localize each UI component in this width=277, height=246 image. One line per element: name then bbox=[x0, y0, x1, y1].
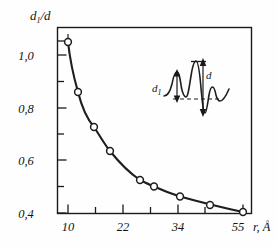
data-point bbox=[207, 202, 214, 209]
y-tick-label: 0,6 bbox=[18, 154, 34, 168]
x-tick-label: 55 bbox=[232, 220, 245, 234]
data-point bbox=[65, 39, 72, 46]
data-point bbox=[137, 177, 144, 184]
data-markers bbox=[65, 39, 247, 216]
y-axis-ticks bbox=[58, 41, 67, 213]
y-tick-label: 0,4 bbox=[18, 207, 34, 221]
inset-label-d1: d1 bbox=[152, 82, 162, 97]
x-tick-labels: 10 22 34 55 r, Å bbox=[62, 220, 271, 234]
x-tick-label: 34 bbox=[171, 220, 185, 234]
data-point bbox=[240, 209, 247, 216]
y-tick-labels: 1,0 0,8 0,6 0,4 bbox=[18, 49, 34, 221]
inset-label-d: d bbox=[206, 69, 212, 81]
x-tick-label: 10 bbox=[62, 220, 75, 234]
y-tick-label: 0,8 bbox=[18, 102, 34, 116]
svg-text:d1/d: d1/d bbox=[30, 8, 51, 25]
data-point bbox=[107, 148, 114, 155]
y-axis-label-tail: /d bbox=[40, 8, 52, 23]
data-point bbox=[91, 124, 98, 131]
x-axis-label: r, Å bbox=[253, 220, 271, 234]
y-axis-label: d1/d bbox=[30, 8, 51, 25]
plot-svg: d1/d 1,0 0,8 0,6 0,4 bbox=[0, 0, 277, 246]
data-point bbox=[151, 183, 158, 190]
figure-container: d1/d 1,0 0,8 0,6 0,4 bbox=[0, 0, 277, 246]
y-tick-label: 1,0 bbox=[18, 49, 34, 63]
data-point bbox=[177, 193, 184, 200]
inset-arrow-d1 bbox=[175, 71, 180, 102]
x-tick-label: 22 bbox=[117, 220, 130, 234]
data-point bbox=[75, 89, 82, 96]
inset-waveform bbox=[164, 61, 229, 113]
inset-diagram: d1 d bbox=[152, 60, 229, 116]
